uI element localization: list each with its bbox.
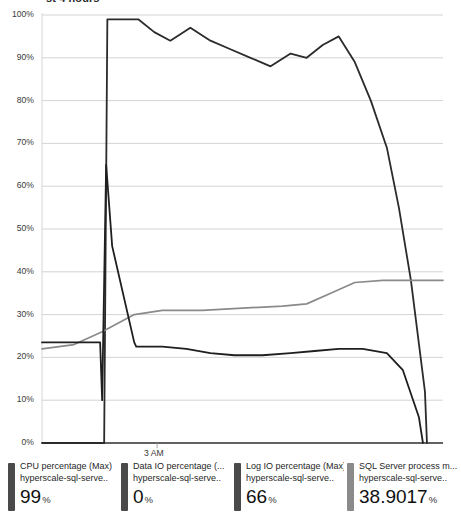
series-line-0[interactable]: [42, 19, 427, 443]
legend-text-block: CPU percentage (Max)hyperscale-sql-serve…: [20, 461, 112, 510]
legend-value: 0%: [133, 486, 225, 510]
y-axis-tick-label: 50%: [0, 224, 34, 233]
legend-metric-name: CPU percentage (Max): [20, 461, 112, 473]
legend-color-swatch: [121, 463, 128, 511]
legend-value-unit: %: [429, 494, 437, 505]
chart-canvas[interactable]: [0, 0, 455, 455]
y-axis-tick-label: 60%: [0, 181, 34, 190]
legend-value: 66%: [246, 486, 344, 510]
legend-resource-name: hyperscale-sql-serve..: [20, 473, 112, 485]
y-axis-tick-label: 40%: [0, 267, 34, 276]
series-line-3[interactable]: [42, 165, 423, 443]
chart-legend: CPU percentage (Max)hyperscale-sql-serve…: [8, 461, 455, 519]
y-axis-tick-label: 70%: [0, 138, 34, 147]
legend-color-swatch: [234, 463, 241, 511]
legend-item[interactable]: SQL Server process m...hyperscale-sql-se…: [347, 461, 461, 519]
legend-item[interactable]: CPU percentage (Max)hyperscale-sql-serve…: [8, 461, 121, 519]
legend-value-unit: %: [42, 494, 50, 505]
y-axis-tick-label: 100%: [0, 10, 34, 19]
legend-item[interactable]: Data IO percentage (...hyperscale-sql-se…: [121, 461, 234, 519]
legend-color-swatch: [347, 463, 354, 511]
legend-resource-name: hyperscale-sql-serve..: [133, 473, 225, 485]
y-axis-tick-label: 10%: [0, 395, 34, 404]
legend-resource-name: hyperscale-sql-serve..: [246, 473, 344, 485]
y-axis-tick-label: 20%: [0, 352, 34, 361]
legend-resource-name: hyperscale-sql-serve..: [359, 473, 457, 485]
legend-text-block: Log IO percentage (Max)hyperscale-sql-se…: [246, 461, 344, 510]
legend-value: 99%: [20, 486, 112, 510]
plot-area[interactable]: [0, 0, 455, 455]
legend-item[interactable]: Log IO percentage (Max)hyperscale-sql-se…: [234, 461, 347, 519]
y-axis-tick-label: 90%: [0, 53, 34, 62]
legend-value: 38.9017%: [359, 486, 457, 510]
x-axis-tick-label: 3 AM: [144, 449, 164, 458]
legend-metric-name: Data IO percentage (...: [133, 461, 225, 473]
legend-color-swatch: [8, 463, 15, 511]
legend-metric-name: Log IO percentage (Max): [246, 461, 344, 473]
legend-value-unit: %: [268, 494, 276, 505]
legend-metric-name: SQL Server process m...: [359, 461, 457, 473]
legend-text-block: SQL Server process m...hyperscale-sql-se…: [359, 461, 457, 510]
y-axis-tick-label: 80%: [0, 96, 34, 105]
y-axis-tick-label: 30%: [0, 310, 34, 319]
legend-value-unit: %: [145, 494, 153, 505]
legend-text-block: Data IO percentage (...hyperscale-sql-se…: [133, 461, 225, 510]
y-axis-tick-label: 0%: [0, 438, 34, 447]
